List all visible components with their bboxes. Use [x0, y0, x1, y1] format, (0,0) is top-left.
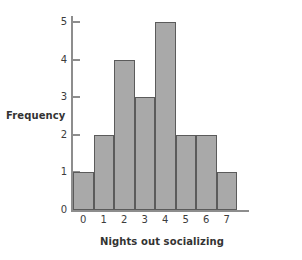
- bar-3: [135, 97, 156, 210]
- bar-1: [94, 135, 115, 210]
- bar-6: [196, 135, 217, 210]
- histogram-figure: Frequency 012345 01234567 Nights out soc…: [0, 0, 302, 260]
- bar-2: [114, 60, 135, 210]
- bar-0: [73, 172, 94, 210]
- bar-5: [176, 135, 197, 210]
- bar-7: [217, 172, 238, 210]
- bar-4: [155, 22, 176, 210]
- x-axis-title: Nights out socializing: [73, 236, 251, 247]
- bar-series: [0, 0, 302, 260]
